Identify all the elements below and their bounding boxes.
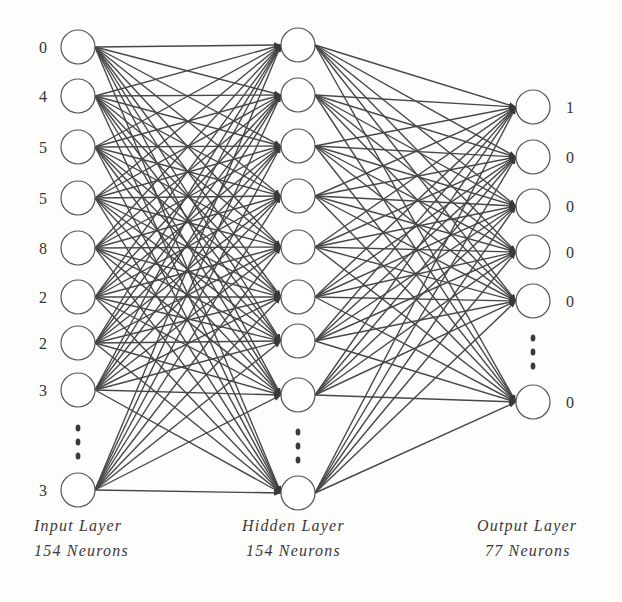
output-neuron-value: 1 (566, 99, 574, 116)
hidden-layer-title: Hidden Layer (242, 513, 345, 538)
connection-edge (315, 95, 516, 107)
ellipsis-dot-icon (531, 348, 536, 355)
connection-edge (95, 147, 281, 395)
input-neuron-value: 2 (39, 289, 47, 306)
hidden-neuron (281, 230, 315, 264)
input-layer-count: 154 Neurons (34, 538, 129, 563)
output-layer-title: Output Layer (477, 513, 577, 538)
connection-edge (315, 402, 516, 493)
input-layer-caption: Input Layer 154 Neurons (34, 513, 129, 563)
neural-network-diagram: 045582233100000 (0, 0, 622, 602)
ellipsis-dot-icon (76, 438, 81, 445)
output-neuron-value: 0 (566, 293, 574, 310)
hidden-neuron (281, 324, 315, 358)
connection-edge (95, 45, 281, 47)
input-neuron (61, 130, 95, 164)
input-neuron-value: 5 (39, 190, 47, 207)
ellipsis-dot-icon (531, 362, 536, 369)
input-neuron-value: 4 (39, 88, 47, 105)
ellipsis-dot-icon (296, 428, 301, 435)
connection-edge (95, 341, 281, 490)
ellipsis-dot-icon (531, 334, 536, 341)
hidden-layer-caption: Hidden Layer 154 Neurons (242, 513, 345, 563)
output-neuron (516, 90, 550, 124)
input-neuron-value: 3 (39, 382, 47, 399)
input-neuron (61, 326, 95, 360)
input-neuron (61, 30, 95, 64)
input-neuron (61, 280, 95, 314)
connection-edge (315, 301, 516, 493)
connection-edge (95, 490, 281, 493)
hidden-neuron (281, 280, 315, 314)
input-layer-title: Input Layer (34, 513, 129, 538)
connection-edge (315, 146, 516, 252)
connection-edge (315, 252, 516, 297)
output-layer-count: 77 Neurons (477, 538, 577, 563)
connection-edge (315, 157, 516, 493)
output-neuron-value: 0 (566, 198, 574, 215)
input-neuron-value: 2 (39, 335, 47, 352)
input-neuron-value: 8 (39, 240, 47, 257)
ellipsis-dot-icon (296, 442, 301, 449)
hidden-neuron (281, 129, 315, 163)
output-neuron-value: 0 (566, 394, 574, 411)
input-neuron (61, 231, 95, 265)
hidden-neuron (281, 179, 315, 213)
input-neuron-value: 0 (39, 39, 47, 56)
connection-edge (315, 107, 516, 297)
output-neuron (516, 140, 550, 174)
connection-edge (315, 95, 516, 252)
ellipsis-dot-icon (296, 456, 301, 463)
connection-edge (95, 248, 281, 493)
ellipsis-dot-icon (76, 452, 81, 459)
hidden-neuron (281, 476, 315, 510)
output-layer-caption: Output Layer 77 Neurons (477, 513, 577, 563)
output-neuron (516, 235, 550, 269)
output-neuron-value: 0 (566, 149, 574, 166)
input-neuron-value: 3 (39, 482, 47, 499)
output-neuron (516, 189, 550, 223)
input-neuron (61, 181, 95, 215)
connection-edges (95, 45, 516, 493)
output-neuron (516, 385, 550, 419)
connection-edge (315, 252, 516, 341)
hidden-neuron (281, 378, 315, 412)
connection-edge (315, 252, 516, 493)
input-neuron-value: 5 (39, 139, 47, 156)
hidden-neuron (281, 28, 315, 62)
output-neuron (516, 284, 550, 318)
connection-edge (95, 45, 281, 343)
output-neuron-value: 0 (566, 244, 574, 261)
input-neuron (61, 79, 95, 113)
input-neuron (61, 473, 95, 507)
ellipsis-dot-icon (76, 424, 81, 431)
hidden-neuron (281, 78, 315, 112)
hidden-layer-count: 154 Neurons (242, 538, 345, 563)
input-neuron (61, 373, 95, 407)
